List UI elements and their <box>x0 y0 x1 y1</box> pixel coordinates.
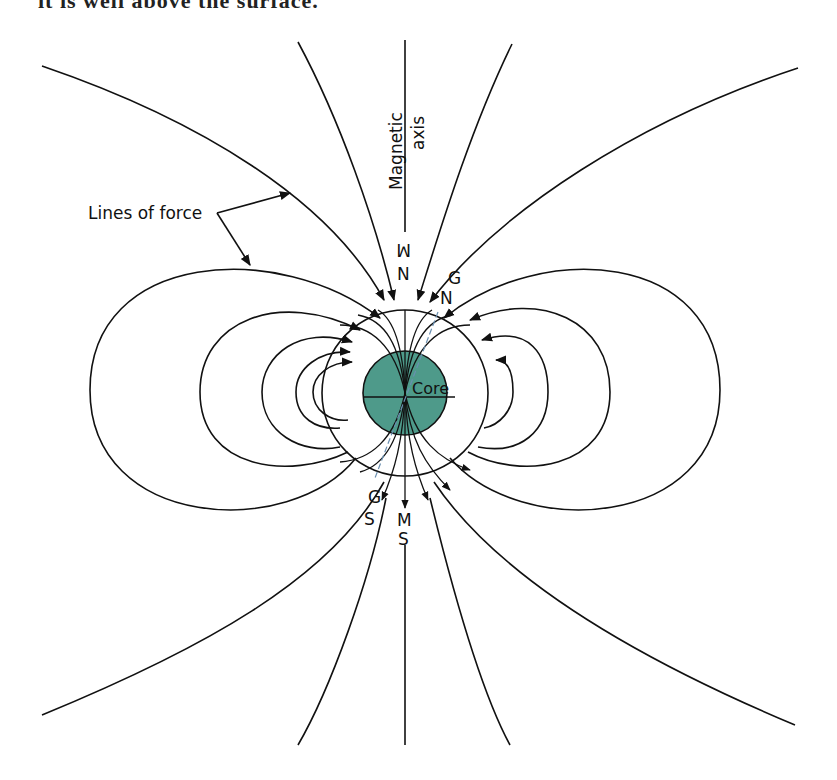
open-field-lines-bottom <box>42 482 795 745</box>
geographic-south-g: G <box>368 487 381 507</box>
magnetic-axis-label-line1: Magnetic <box>386 112 406 190</box>
geographic-north-g: G <box>448 268 461 288</box>
magnetic-south-s: S <box>398 529 409 549</box>
closed-field-loops-right <box>444 269 720 510</box>
lines-of-force-pointers <box>217 193 290 265</box>
magnetic-south-m: M <box>397 510 412 530</box>
magnetic-north-m: M <box>396 240 411 260</box>
geographic-north-n: N <box>440 288 453 308</box>
magnetic-field-diagram: Magnetic axis M N G N G S M S Core Lines… <box>0 0 837 780</box>
open-field-lines-top <box>42 42 798 302</box>
closed-field-loops-left <box>90 269 380 510</box>
core-label: Core <box>412 379 449 398</box>
inner-field-lines <box>340 310 470 508</box>
magnetic-axis-label-line2: axis <box>408 116 428 150</box>
lines-of-force-label: Lines of force <box>88 203 202 223</box>
magnetic-north-n: N <box>397 264 410 284</box>
geographic-south-s: S <box>364 509 375 529</box>
